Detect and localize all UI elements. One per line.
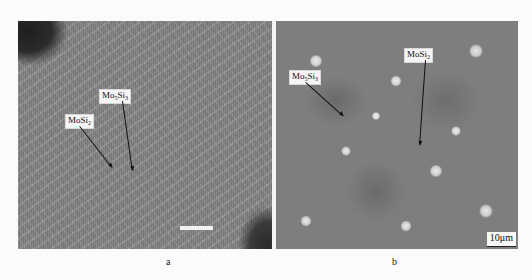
arrow-mosi2 bbox=[79, 126, 112, 168]
caption-b: b bbox=[392, 256, 397, 267]
arrow-mo5si3 bbox=[122, 101, 133, 170]
scale-bar-label: 10μm bbox=[487, 232, 516, 247]
scale-bar bbox=[180, 226, 213, 230]
arrow-mo5si3 bbox=[305, 82, 343, 116]
micrograph-panel-a: Mo5Si3 MoSi2 bbox=[18, 21, 272, 249]
micrograph-panel-b: MoSi2 Mo5Si3 10μm bbox=[276, 21, 518, 249]
caption-a: a bbox=[166, 256, 170, 267]
phase-label-mosi2: MoSi2 bbox=[404, 48, 433, 63]
phase-label-mo5si3: Mo5Si3 bbox=[99, 89, 131, 104]
arrow-mosi2 bbox=[419, 60, 426, 145]
